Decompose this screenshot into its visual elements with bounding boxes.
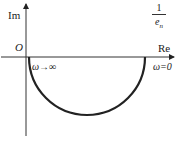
omega-infinity-label: ω→∞ xyxy=(32,62,56,72)
real-axis-label: Re xyxy=(158,43,170,54)
intercept-denominator: en xyxy=(152,15,166,30)
intercept-label: 1 en xyxy=(152,2,166,30)
intercept-subscript: n xyxy=(159,22,163,30)
origin-label: O xyxy=(15,42,23,53)
intercept-numerator: 1 xyxy=(152,2,166,15)
imag-axis-label: Im xyxy=(8,10,20,21)
omega-zero-label: ω=0 xyxy=(153,62,172,72)
